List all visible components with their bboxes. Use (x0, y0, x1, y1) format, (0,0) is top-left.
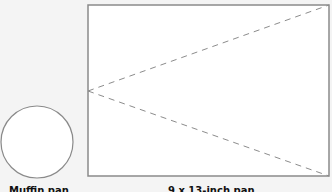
pan-comparison-diagram (0, 0, 332, 192)
muffin-pan-circle (1, 106, 73, 178)
muffin-pan-label: Muffin pan (9, 185, 69, 192)
rectangular-pan-label: 9 x 13-inch pan (168, 185, 255, 192)
rectangular-pan-rect (88, 5, 329, 176)
